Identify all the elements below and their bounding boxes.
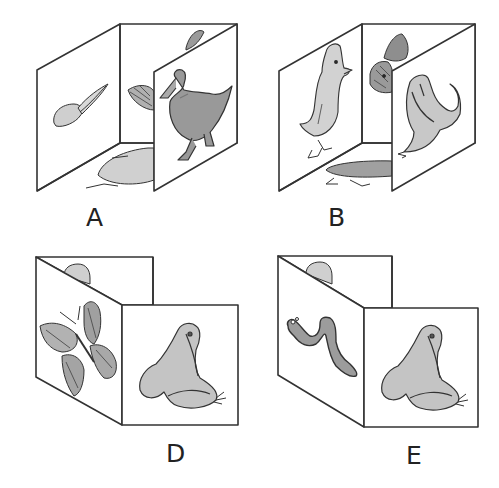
puzzle-figure-set: A (0, 0, 499, 488)
figure-e-label: E (406, 441, 422, 470)
figure-e-folded-card: E (0, 0, 499, 488)
